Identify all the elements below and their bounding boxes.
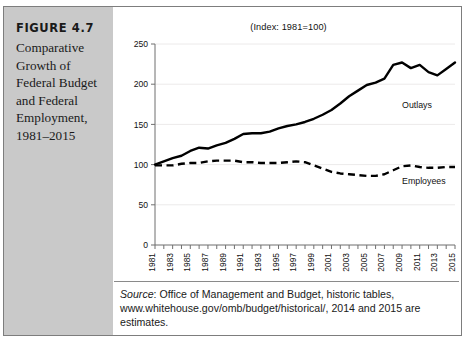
x-tick-label: 1989 bbox=[218, 253, 228, 272]
figure-caption-panel: FIGURE 4.7 Comparative Growth of Federal… bbox=[4, 7, 113, 335]
source-text: : Office of Management and Budget, histo… bbox=[120, 288, 420, 328]
y-tick-label: 250 bbox=[134, 39, 149, 49]
y-tick-label: 50 bbox=[138, 200, 148, 210]
x-tick-label: 1993 bbox=[253, 253, 263, 272]
x-tick-label: 1995 bbox=[271, 253, 281, 272]
x-tick-label: 2009 bbox=[394, 253, 404, 272]
x-tick-label: 1991 bbox=[235, 253, 245, 272]
source-note: Source: Office of Management and Budget,… bbox=[120, 288, 455, 329]
x-tick-label: 1987 bbox=[200, 253, 210, 272]
series-line-outlays bbox=[155, 62, 455, 164]
x-tick-label: 2005 bbox=[359, 253, 369, 272]
x-tick-label: 2015 bbox=[447, 253, 457, 272]
x-tick-label: 2013 bbox=[429, 253, 439, 272]
figure-container: FIGURE 4.7 Comparative Growth of Federal… bbox=[0, 0, 467, 344]
y-tick-label: 150 bbox=[134, 120, 149, 130]
source-label: Source bbox=[120, 288, 154, 300]
x-tick-label: 2011 bbox=[412, 253, 422, 271]
x-tick-label: 1999 bbox=[306, 253, 316, 272]
chart-area: (Index: 1981=100) 0501001502002501981198… bbox=[118, 10, 459, 285]
y-tick-label: 100 bbox=[134, 160, 149, 170]
figure-number: FIGURE 4.7 bbox=[16, 21, 103, 36]
y-tick-label: 0 bbox=[143, 240, 148, 250]
y-tick-label: 200 bbox=[134, 79, 149, 89]
x-tick-label: 1997 bbox=[288, 253, 298, 272]
x-tick-label: 2001 bbox=[323, 253, 333, 272]
x-tick-label: 1981 bbox=[147, 253, 157, 272]
x-tick-label: 2007 bbox=[376, 253, 386, 272]
x-tick-label: 2003 bbox=[341, 253, 351, 272]
source-divider bbox=[114, 281, 459, 282]
line-chart-plot: 0501001502002501981198319851987198919911… bbox=[118, 10, 459, 285]
figure-title: Comparative Growth of Federal Budget and… bbox=[16, 39, 103, 145]
series-line-employees bbox=[155, 161, 455, 176]
x-tick-label: 1985 bbox=[182, 253, 192, 272]
series-label-employees: Employees bbox=[402, 176, 446, 186]
x-tick-label: 1983 bbox=[165, 253, 175, 272]
series-label-outlays: Outlays bbox=[402, 100, 432, 110]
